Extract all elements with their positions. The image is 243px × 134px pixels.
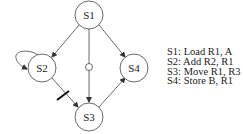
small-circle-marker (86, 64, 93, 71)
instruction-legend: S1: Load R1, A S2: Add R2, R1 S3: Move R… (167, 47, 241, 86)
node-s4: S4 (120, 54, 148, 82)
edge-s2-s3 (52, 78, 78, 107)
edge-s3-s4 (99, 78, 125, 107)
node-s4-label: S4 (128, 62, 140, 74)
node-s2-label: S2 (36, 62, 48, 74)
node-s2: S2 (28, 54, 56, 82)
edge-s1-s2 (52, 25, 79, 57)
legend-item-s4: S4: Store B, R1 (167, 76, 241, 86)
node-s3: S3 (75, 103, 103, 131)
node-s3-label: S3 (83, 111, 95, 123)
edge-s1-s4 (99, 25, 125, 57)
node-s1: S1 (75, 1, 103, 29)
node-s1-label: S1 (83, 9, 95, 21)
